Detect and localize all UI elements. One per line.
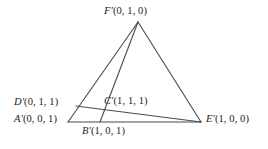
figure-canvas	[0, 0, 268, 149]
vertex-label-C: C′(1, 1, 1)	[104, 96, 148, 107]
segment-D-E	[76, 106, 201, 122]
vertex-coords-D: (0, 1, 1)	[24, 96, 58, 107]
vertex-label-A: A′(0, 0, 1)	[14, 114, 57, 125]
vertex-coords-E: (1, 0, 0)	[215, 113, 249, 124]
segment-F-A	[68, 22, 138, 122]
vertex-name-D: D′	[14, 96, 24, 107]
vertex-label-E: E′(1, 0, 0)	[206, 114, 249, 125]
segment-F-B	[100, 22, 138, 122]
segment-F-E	[138, 22, 201, 122]
vertex-label-B: B′(1, 0, 1)	[82, 126, 125, 137]
vertex-name-F: F′	[104, 5, 113, 16]
vertex-coords-C: (1, 1, 1)	[114, 95, 148, 106]
vertex-label-F: F′(0, 1, 0)	[104, 6, 147, 17]
geometry-figure: F′(0, 1, 0) D′(0, 1, 1) A′(0, 0, 1) C′(1…	[0, 0, 268, 149]
vertex-name-B: B′	[82, 125, 91, 136]
vertex-name-C: C′	[104, 95, 114, 106]
vertex-name-E: E′	[206, 113, 215, 124]
vertex-coords-B: (1, 0, 1)	[91, 125, 125, 136]
vertex-coords-F: (0, 1, 0)	[113, 5, 147, 16]
vertex-label-D: D′(0, 1, 1)	[14, 97, 58, 108]
vertex-coords-A: (0, 0, 1)	[23, 113, 57, 124]
vertex-name-A: A′	[14, 113, 23, 124]
